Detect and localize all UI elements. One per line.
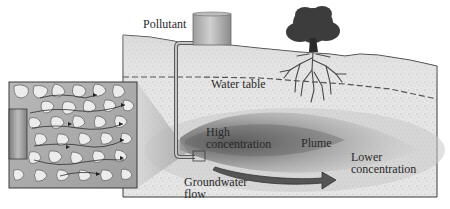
high-concentration-line2: concentration bbox=[206, 138, 271, 150]
lower-concentration-line2: concentration bbox=[351, 163, 416, 175]
groundwater-flow-label: Groundwater flow bbox=[184, 176, 247, 200]
groundwater-flow-line2: flow bbox=[184, 188, 247, 200]
magnified-inset bbox=[9, 82, 137, 188]
high-concentration-label: High concentration bbox=[206, 126, 271, 150]
pollutant-label: Pollutant bbox=[143, 18, 186, 30]
tank-icon bbox=[193, 12, 231, 45]
plume-label: Plume bbox=[301, 137, 332, 149]
water-table-label: Water table bbox=[211, 78, 266, 90]
lower-concentration-label: Lower concentration bbox=[351, 151, 416, 175]
